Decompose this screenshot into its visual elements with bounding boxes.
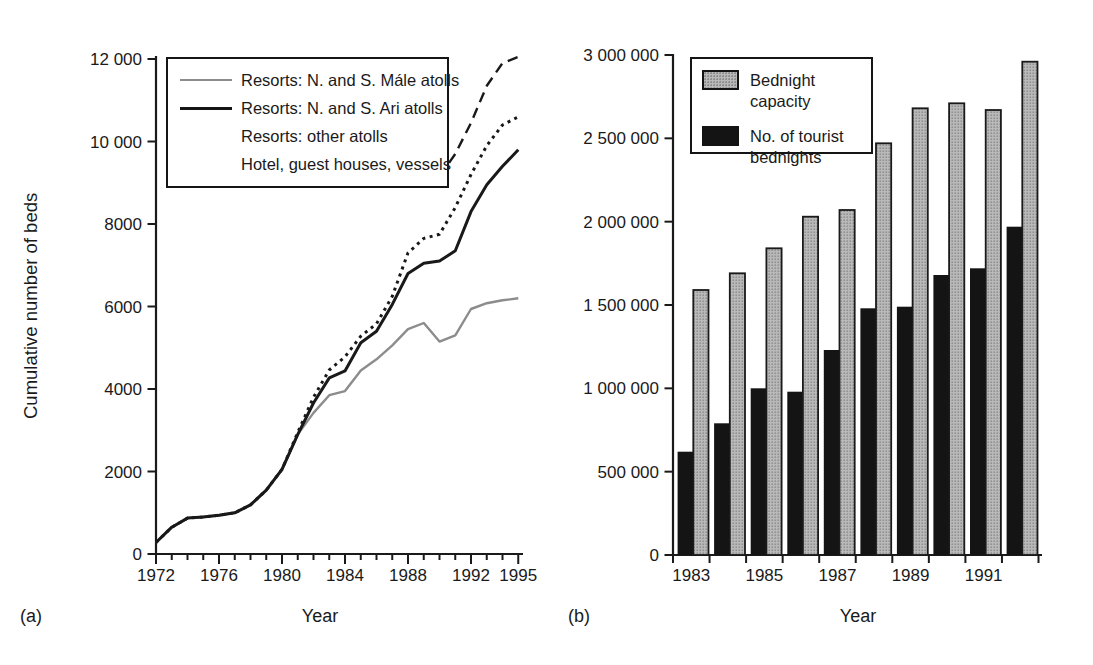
chart-a-y-tick-label: 12 000 (90, 50, 142, 69)
bar-bednight-capacity-1992 (1022, 62, 1037, 555)
legend-item-ari-atolls: Resorts: N. and S. Ari atolls (180, 99, 443, 118)
bar-tourist-bednights-1983 (678, 452, 694, 555)
chart-a-y-tick-label: 10 000 (90, 133, 142, 152)
black-bar-swatch-icon (702, 126, 739, 146)
chart-b-y-tick-label: 2 500 000 (583, 129, 659, 148)
bar-tourist-bednights-1984 (714, 423, 730, 555)
chart-b-x-tick-label: 1991 (965, 566, 1003, 585)
legend-label-ari-atolls: Resorts: N. and S. Ari atolls (241, 99, 443, 118)
panel-a-tag: (a) (20, 606, 42, 627)
chart-a-x-tick-label: 1972 (137, 566, 175, 585)
chart-a-series-line-1 (156, 150, 518, 543)
bar-tourist-bednights-1985 (751, 388, 767, 555)
bar-bednight-capacity-1985 (766, 248, 781, 555)
legend-label-other-atolls: Resorts: other atolls (241, 127, 388, 146)
figure-maldives-tourism-charts: 0200040006000800010 00012 00019721976198… (0, 0, 1093, 665)
chart-b-y-tick-label: 0 (650, 546, 659, 565)
legend-item-other-atolls: Resorts: other atolls (180, 127, 443, 146)
chart-a-y-axis-title: Cumulative number of beds (20, 150, 42, 462)
chart-a-series-line-0 (156, 298, 518, 542)
chart-b-y-tick-label: 500 000 (598, 463, 659, 482)
bar-bednight-capacity-1984 (730, 273, 745, 555)
chart-a-y-tick-label: 8000 (104, 215, 142, 234)
bar-tourist-bednights-1991 (970, 268, 986, 555)
chart-b-y-tick-label: 2 000 000 (583, 213, 659, 232)
chart-a-legend: Resorts: N. and S. Mále atolls Resorts: … (166, 57, 449, 188)
chart-a-x-tick-label: 1976 (200, 566, 238, 585)
legend-item-hotels-vessels: Hotel, guest houses, vessels (180, 155, 443, 174)
bar-bednight-capacity-1983 (693, 290, 708, 555)
chart-a-x-tick-label: 1980 (263, 566, 301, 585)
panel-b-tag: (b) (568, 606, 590, 627)
chart-a-y-tick-label: 2000 (104, 463, 142, 482)
legend-label-male-atolls: Resorts: N. and S. Mále atolls (241, 71, 459, 90)
bar-tourist-bednights-1992 (1007, 227, 1023, 555)
bar-tourist-bednights-1988 (860, 308, 876, 555)
chart-a-y-tick-label: 0 (133, 545, 142, 564)
bar-tourist-bednights-1990 (933, 275, 949, 555)
chart-a-x-tick-label: 1988 (389, 566, 427, 585)
bar-tourist-bednights-1987 (824, 350, 840, 555)
legend-item-male-atolls: Resorts: N. and S. Mále atolls (180, 71, 443, 90)
bar-bednight-capacity-1990 (949, 103, 964, 555)
chart-a-y-tick-label: 6000 (104, 298, 142, 317)
gray-bar-swatch-icon (702, 70, 739, 90)
legend-label-hotels-vessels: Hotel, guest houses, vessels (241, 155, 451, 174)
gray-solid-line-swatch-icon (180, 79, 232, 81)
black-solid-line-swatch-icon (180, 107, 232, 110)
bar-bednight-capacity-1991 (986, 110, 1001, 555)
chart-b-x-tick-label: 1983 (672, 566, 710, 585)
chart-b-y-tick-label: 1 500 000 (583, 296, 659, 315)
chart-a-x-tick-label: 1995 (499, 566, 537, 585)
bar-bednight-capacity-1987 (840, 210, 855, 555)
legend-item-bednight-capacity: Bednight capacity (702, 70, 865, 113)
legend-label-bednight-capacity: Bednight capacity (750, 70, 865, 113)
chart-a-x-tick-label: 1992 (452, 566, 490, 585)
chart-b-x-axis-title: Year (672, 606, 1044, 627)
legend-label-tourist-bednights: No. of tourist bednights (750, 126, 865, 169)
chart-b-y-tick-label: 1 000 000 (583, 379, 659, 398)
bar-bednight-capacity-1989 (913, 108, 928, 555)
chart-b-x-tick-label: 1985 (745, 566, 783, 585)
chart-b-x-tick-label: 1989 (892, 566, 930, 585)
bar-bednight-capacity-1986 (803, 217, 818, 555)
chart-b-x-tick-label: 1987 (819, 566, 857, 585)
bar-tourist-bednights-1986 (787, 392, 803, 555)
chart-b-y-tick-label: 3 000 000 (583, 46, 659, 65)
bar-tourist-bednights-1989 (897, 307, 913, 555)
chart-b-legend: Bednight capacity No. of tourist bednigh… (690, 57, 873, 154)
bar-bednight-capacity-1988 (876, 143, 891, 555)
legend-item-tourist-bednights: No. of tourist bednights (702, 126, 865, 169)
chart-a-x-axis-title: Year (120, 606, 520, 627)
chart-a-y-tick-label: 4000 (104, 380, 142, 399)
chart-a-x-tick-label: 1984 (326, 566, 364, 585)
